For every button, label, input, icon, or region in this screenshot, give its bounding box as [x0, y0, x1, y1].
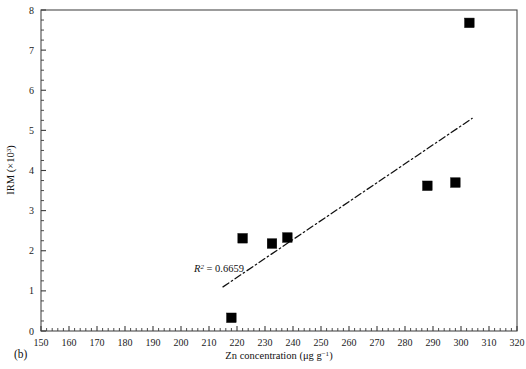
x-tick-label: 290 — [426, 337, 441, 348]
data-point — [423, 181, 433, 191]
x-tick-label: 190 — [146, 337, 161, 348]
x-axis-ticks — [41, 326, 517, 331]
x-tick-label: 150 — [34, 337, 49, 348]
scatter-plot: 1501601701801902002102202302402502602702… — [0, 0, 526, 369]
data-point — [283, 233, 293, 243]
x-tick-label: 230 — [258, 337, 273, 348]
y-tick-label: 4 — [29, 165, 34, 176]
x-tick-label: 300 — [454, 337, 469, 348]
x-tick-label: 310 — [482, 337, 497, 348]
x-axis-tick-labels: 1501601701801902002102202302402502602702… — [34, 337, 525, 348]
y-axis-title: IRM (×103) — [5, 145, 18, 195]
y-axis-tick-labels: 012345678 — [29, 5, 34, 337]
x-tick-label: 280 — [398, 337, 413, 348]
x-tick-label: 250 — [314, 337, 329, 348]
panel-label: (b) — [14, 348, 28, 361]
y-tick-label: 5 — [29, 125, 34, 136]
x-tick-label: 160 — [62, 337, 77, 348]
data-point — [465, 18, 475, 28]
x-tick-label: 270 — [370, 337, 385, 348]
x-tick-label: 220 — [230, 337, 245, 348]
y-tick-label: 3 — [29, 205, 34, 216]
figure-panel: 1501601701801902002102202302402502602702… — [0, 0, 526, 369]
data-point — [267, 239, 277, 249]
x-tick-label: 200 — [174, 337, 189, 348]
x-tick-label: 210 — [202, 337, 217, 348]
data-point — [451, 178, 461, 188]
x-axis-title: Zn concentration (μg g−1) — [225, 350, 333, 363]
data-point — [238, 234, 248, 244]
y-tick-label: 2 — [29, 245, 34, 256]
y-tick-label: 1 — [29, 285, 34, 296]
x-tick-label: 260 — [342, 337, 357, 348]
x-tick-label: 240 — [286, 337, 301, 348]
r-squared-annotation: R2 = 0.6659 — [193, 263, 244, 275]
y-tick-label: 8 — [29, 5, 34, 16]
trend-line — [223, 118, 472, 287]
plot-area-frame — [41, 10, 517, 331]
y-axis-ticks — [41, 10, 46, 331]
y-tick-label: 6 — [29, 85, 34, 96]
data-point-markers — [227, 18, 475, 322]
x-tick-label: 320 — [510, 337, 525, 348]
x-tick-label: 180 — [118, 337, 133, 348]
data-point — [227, 313, 237, 323]
x-tick-label: 170 — [90, 337, 105, 348]
y-tick-label: 7 — [29, 45, 34, 56]
y-tick-label: 0 — [29, 326, 34, 337]
